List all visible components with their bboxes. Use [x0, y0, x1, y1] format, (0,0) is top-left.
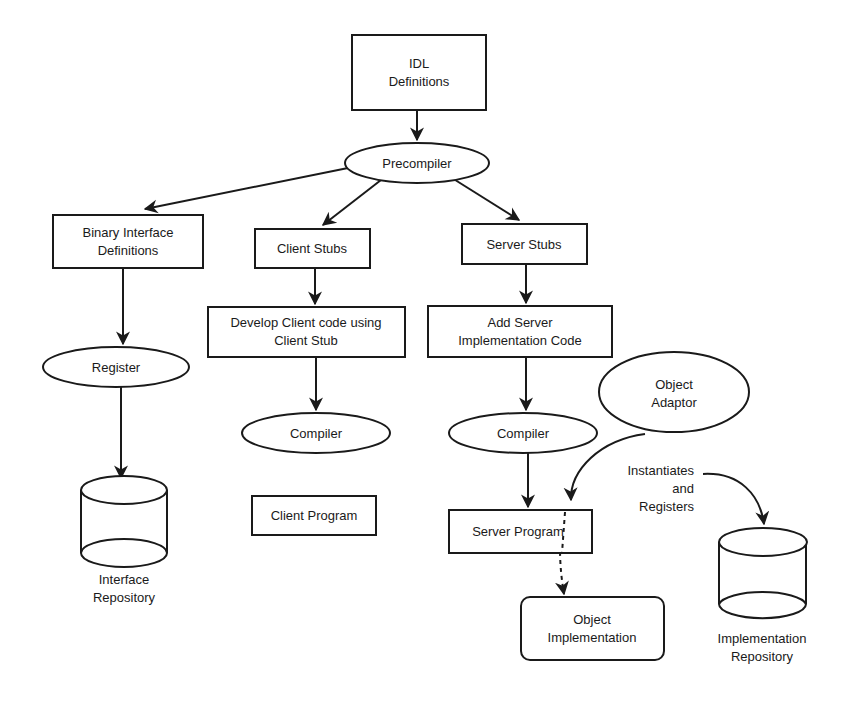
edge-precompiler-to-server-stubs — [452, 178, 519, 220]
edge-precompiler-to-client-stubs — [323, 180, 381, 225]
node-precompiler: Precompiler — [345, 143, 489, 183]
server-program-label: Server Program — [472, 524, 564, 539]
node-client-program: Client Program — [252, 496, 376, 535]
node-object-implementation: Object Implementation — [521, 597, 664, 660]
server-compiler-label: Compiler — [497, 426, 550, 441]
edge-precompiler-to-binary — [145, 168, 348, 209]
node-object-adaptor: Object Adaptor — [599, 352, 749, 432]
interface-repo-label-line1: Interface — [99, 572, 150, 587]
object-impl-label-line1: Object — [573, 612, 611, 627]
node-add-server-implementation: Add Server Implementation Code — [428, 306, 612, 357]
client-stubs-label: Client Stubs — [277, 241, 348, 256]
server-stubs-label: Server Stubs — [486, 237, 562, 252]
edge-instantiates-to-impl-repo — [703, 474, 764, 524]
node-binary-interface-definitions: Binary Interface Definitions — [53, 215, 203, 268]
impl-repo-label-line1: Implementation — [718, 631, 807, 646]
idl-label-line2: Definitions — [389, 74, 450, 89]
annotation-instantiates-and-registers: Instantiates and Registers — [628, 463, 695, 514]
client-compiler-label: Compiler — [290, 426, 343, 441]
node-server-program: Server Program — [449, 510, 592, 553]
impl-repo-label-line2: Repository — [731, 649, 794, 664]
node-idl-definitions: IDL Definitions — [352, 35, 486, 110]
node-interface-repository: Interface Repository — [81, 476, 167, 605]
node-server-stubs: Server Stubs — [462, 224, 587, 264]
registers-label: Registers — [639, 499, 694, 514]
develop-label-line2: Client Stub — [274, 333, 338, 348]
add-impl-label-line2: Implementation Code — [458, 333, 582, 348]
node-server-compiler: Compiler — [449, 413, 597, 453]
node-client-compiler: Compiler — [242, 413, 390, 453]
corba-build-diagram: IDL Definitions Precompiler Binary Inter… — [0, 0, 853, 701]
develop-label-line1: Develop Client code using — [230, 315, 381, 330]
node-implementation-repository: Implementation Repository — [718, 528, 807, 664]
and-label: and — [672, 481, 694, 496]
object-impl-label-line2: Implementation — [548, 630, 637, 645]
instantiates-label: Instantiates — [628, 463, 695, 478]
idl-label-line1: IDL — [409, 56, 429, 71]
add-impl-label-line1: Add Server — [487, 315, 553, 330]
interface-repo-label-line2: Repository — [93, 590, 156, 605]
node-client-stubs: Client Stubs — [255, 229, 370, 268]
binary-label-line1: Binary Interface — [82, 225, 173, 240]
binary-label-line2: Definitions — [98, 243, 159, 258]
client-program-label: Client Program — [271, 508, 358, 523]
adaptor-label-line2: Adaptor — [651, 395, 697, 410]
adaptor-label-line1: Object — [655, 377, 693, 392]
node-develop-client-code: Develop Client code using Client Stub — [208, 307, 405, 357]
node-register: Register — [43, 347, 189, 387]
register-label: Register — [92, 360, 141, 375]
precompiler-label: Precompiler — [382, 156, 452, 171]
